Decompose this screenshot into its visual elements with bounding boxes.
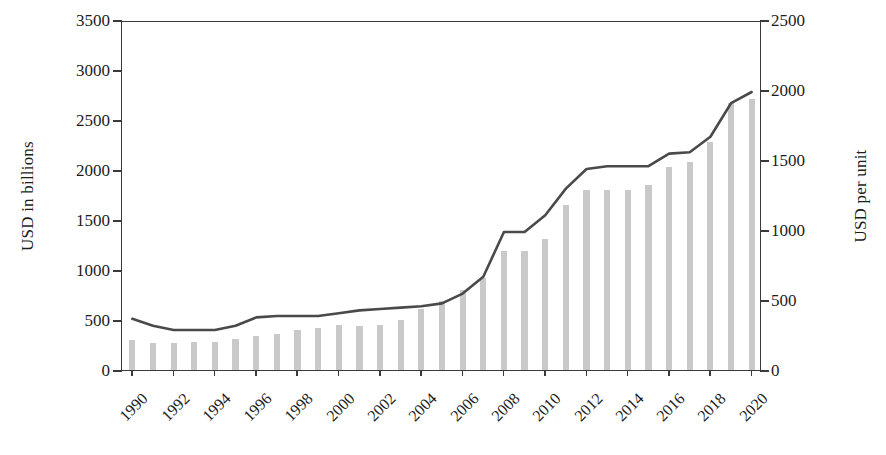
x-axis-tick-label: 2008 — [488, 390, 523, 425]
x-axis-tick-label: 1998 — [281, 390, 316, 425]
y-axis-right-title: USD per unit — [851, 149, 871, 242]
x-axis-tick-label: 1992 — [158, 390, 193, 425]
y-axis-right-tick-label: 1000 — [771, 221, 805, 241]
y-axis-left-tick-labels: 0500100015002000250030003500 — [40, 21, 110, 371]
y-axis-right-tick-label: 1500 — [771, 151, 805, 171]
x-axis-tick-mark — [544, 371, 546, 376]
y-axis-left-tick-label: 3000 — [76, 61, 110, 81]
x-axis-tick-label: 2016 — [653, 390, 688, 425]
x-axis-tick-mark — [173, 371, 175, 376]
x-axis-tick-mark — [214, 371, 216, 376]
y-axis-left-tick-label: 2500 — [76, 111, 110, 131]
y-axis-left-tick-label: 3500 — [76, 11, 110, 31]
x-axis-tick-label: 1996 — [240, 390, 275, 425]
x-axis-tick-label: 2000 — [323, 390, 358, 425]
x-axis-tick-labels: 1990199219941996199820002002200420062008… — [121, 371, 761, 455]
y-axis-right-tick-labels: 05001000150020002500 — [771, 21, 831, 371]
x-axis-tick-label: 2006 — [447, 390, 482, 425]
x-axis-tick-mark — [668, 371, 670, 376]
x-axis-tick-mark — [131, 371, 133, 376]
y-axis-right-tick-label: 500 — [771, 291, 797, 311]
x-axis-tick-mark — [420, 371, 422, 376]
x-axis-tick-label: 2002 — [364, 390, 399, 425]
x-axis-tick-mark — [338, 371, 340, 376]
y-axis-right-tick-label: 2500 — [771, 11, 805, 31]
x-axis-tick-label: 2010 — [529, 390, 564, 425]
plot-area — [121, 21, 761, 371]
y-axis-left-tick-label: 1500 — [76, 211, 110, 231]
x-axis-tick-label: 1994 — [199, 390, 234, 425]
x-axis-tick-mark — [503, 371, 505, 376]
x-axis-tick-label: 1990 — [116, 390, 151, 425]
chart-container: USD in billions USD per unit 05001000150… — [0, 0, 886, 455]
x-axis-tick-mark — [379, 371, 381, 376]
x-axis-tick-label: 2018 — [694, 390, 729, 425]
x-axis-tick-mark — [255, 371, 257, 376]
y-axis-left-tick-label: 500 — [85, 311, 111, 331]
x-axis-tick-mark — [586, 371, 588, 376]
x-axis-tick-label: 2020 — [736, 390, 771, 425]
usd-per-unit-line — [132, 92, 751, 330]
y-axis-left-title: USD in billions — [18, 141, 38, 251]
y-axis-right-tick-label: 2000 — [771, 81, 805, 101]
x-axis-tick-mark — [709, 371, 711, 376]
x-axis-tick-mark — [462, 371, 464, 376]
x-axis-tick-label: 2014 — [612, 390, 647, 425]
x-axis-tick-mark — [627, 371, 629, 376]
line-series-layer — [122, 22, 762, 372]
x-axis-tick-mark — [751, 371, 753, 376]
y-axis-left-tick-label: 0 — [102, 361, 111, 381]
x-axis-tick-label: 2012 — [571, 390, 606, 425]
x-axis-tick-label: 2004 — [405, 390, 440, 425]
x-axis-tick-mark — [296, 371, 298, 376]
y-axis-right-tick-label: 0 — [771, 361, 780, 381]
y-axis-left-tick-label: 1000 — [76, 261, 110, 281]
y-axis-left-tick-label: 2000 — [76, 161, 110, 181]
